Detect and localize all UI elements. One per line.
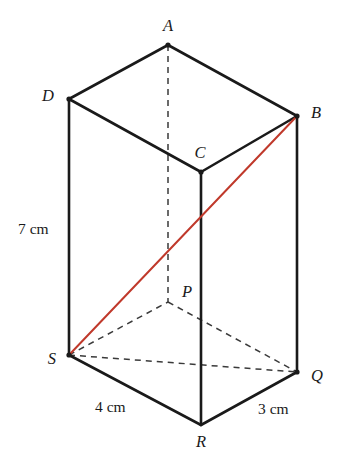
cuboid-diagram: ADBCPSQR 7 cm4 cm3 cm — [0, 0, 345, 463]
vertex-dot-d — [66, 96, 71, 101]
vertex-label-c: C — [194, 143, 206, 162]
vertex-dot-q — [294, 369, 299, 374]
vertex-dots-group — [66, 42, 299, 374]
vertex-label-r: R — [195, 432, 206, 451]
vertex-label-s: S — [48, 349, 56, 368]
vertex-dot-c — [198, 169, 203, 174]
edge-S-Q — [69, 355, 297, 372]
dimension-labels-group: 7 cm4 cm3 cm — [18, 220, 289, 417]
vertex-dot-b — [294, 113, 299, 118]
vertex-label-p: P — [181, 282, 192, 301]
dimension-label-width: 3 cm — [258, 400, 289, 417]
dimension-label-length: 4 cm — [95, 398, 126, 415]
edge-A-B — [168, 45, 297, 116]
edge-S-P — [69, 302, 168, 355]
vertex-labels-group: ADBCPSQR — [41, 16, 323, 451]
hidden-edges-group — [69, 45, 297, 372]
vertex-dot-s — [66, 352, 71, 357]
dimension-label-height: 7 cm — [18, 220, 49, 237]
edge-B-C — [201, 116, 297, 172]
edge-C-D — [69, 99, 201, 172]
diagonals-group — [69, 116, 297, 355]
vertex-label-d: D — [41, 86, 54, 105]
geometry-figure: ADBCPSQR 7 cm4 cm3 cm — [0, 0, 345, 463]
diagonal-S-B — [69, 116, 297, 355]
edge-D-A — [69, 45, 168, 99]
vertex-label-q: Q — [311, 366, 323, 385]
edge-P-Q — [168, 302, 297, 372]
vertex-label-a: A — [162, 16, 174, 35]
vertex-label-b: B — [311, 103, 321, 122]
edge-R-Q — [201, 372, 297, 425]
edge-S-R — [69, 355, 201, 425]
vertex-dot-a — [165, 42, 170, 47]
